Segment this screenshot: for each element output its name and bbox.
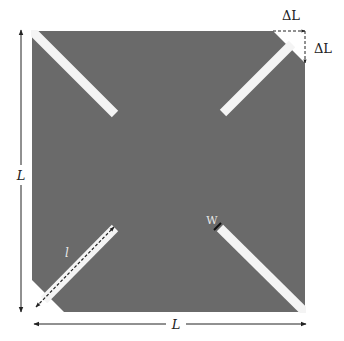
label-corner-cut-vertical: ΔL — [314, 41, 332, 56]
label-side-length-horizontal: L — [171, 317, 181, 332]
label-side-length-vertical: L — [16, 168, 26, 183]
label-corner-cut-horizontal: ΔL — [282, 8, 300, 23]
slotted-square-patch-diagram: L L ΔL ΔL l W — [0, 0, 344, 341]
label-slot-width: W — [206, 214, 218, 227]
label-slot-length: l — [65, 246, 69, 260]
